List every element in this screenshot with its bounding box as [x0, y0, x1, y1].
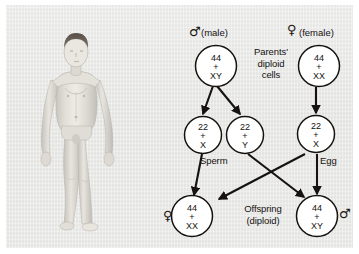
offspring-label-line2: (diploid) — [232, 215, 294, 227]
egg-x-plus: + — [313, 130, 318, 140]
parent-female-plus: + — [316, 62, 321, 72]
node-offspring-female: 44 + XX — [172, 196, 213, 237]
offspring-label-line1: Offspring — [232, 203, 294, 215]
sperm-y-plus: + — [242, 131, 247, 141]
sperm-x-plus: + — [200, 131, 205, 141]
node-egg-x: 22 + X — [298, 116, 335, 153]
node-sperm-y: 22 + Y — [227, 117, 264, 154]
offspring-male-sex-chromosomes: XY — [311, 221, 323, 231]
offspring-male-plus: + — [314, 212, 319, 222]
egg-x-sex-chromosome: X — [313, 139, 319, 149]
edge-parent-male-to-sperm-y — [217, 86, 240, 114]
female-symbol-icon: ♀ — [287, 23, 297, 36]
egg-label: Egg — [320, 155, 337, 167]
parent-male-sex-chromosomes: XY — [210, 71, 222, 81]
male-header-label: (male) — [201, 27, 228, 38]
offspring-female-sex-chromosomes: XX — [186, 221, 198, 231]
offspring-female-symbol-icon: ♀ — [163, 209, 173, 222]
female-header-label: (female) — [299, 27, 334, 38]
node-sperm-x: 22 + X — [185, 117, 222, 154]
parent-male-plus: + — [213, 62, 218, 72]
offspring-label: Offspring (diploid) — [232, 203, 294, 226]
parents-label: Parents' diploid cells — [243, 46, 299, 81]
offspring-female-plus: + — [189, 212, 194, 222]
offspring-male-symbol-icon: ♂ — [339, 207, 351, 220]
parents-label-line2: diploid — [243, 58, 299, 70]
sperm-label: Sperm — [200, 155, 227, 167]
male-symbol-icon: ♂ — [189, 25, 201, 38]
node-offspring-male: 44 + XY — [297, 196, 338, 237]
edge-sperm-y-to-offspring-male — [248, 154, 304, 197]
parents-label-line1: Parents' — [243, 46, 299, 58]
node-parent-female: 44 + XX — [299, 46, 340, 87]
parents-label-line3: cells — [243, 69, 299, 81]
parent-female-sex-chromosomes: XX — [313, 71, 325, 81]
node-parent-male: 44 + XY — [196, 46, 237, 87]
sperm-x-sex-chromosome: X — [200, 140, 206, 150]
edge-egg-to-offspring-female — [219, 154, 305, 199]
sperm-y-sex-chromosome: Y — [242, 140, 248, 150]
edge-parent-male-to-sperm-x — [203, 86, 213, 114]
diagram-page: 44 + XY 44 + XX 22 + X 22 + — [0, 0, 359, 254]
sex-determination-diagram: 44 + XY 44 + XX 22 + X 22 + — [0, 0, 359, 254]
